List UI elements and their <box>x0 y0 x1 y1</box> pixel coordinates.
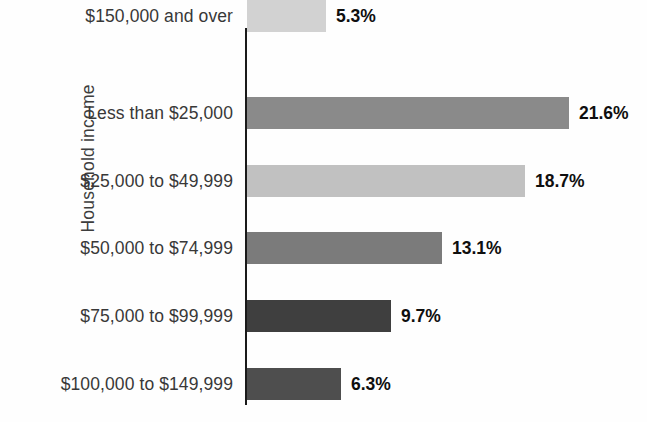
category-label: $100,000 to $149,999 <box>0 374 233 395</box>
bar-row: $25,000 to $49,999 18.7% <box>0 165 647 197</box>
value-label: 18.7% <box>535 171 585 192</box>
bar <box>247 0 326 32</box>
bar-chart: Household income Less than $25,000 21.6%… <box>0 0 647 422</box>
category-label: Less than $25,000 <box>0 103 233 124</box>
value-label: 6.3% <box>351 374 391 395</box>
category-label: $75,000 to $99,999 <box>0 306 233 327</box>
category-label: $50,000 to $74,999 <box>0 238 233 259</box>
bar-row: $150,000 and over 5.3% <box>0 0 647 32</box>
bar <box>247 97 569 129</box>
value-label: 21.6% <box>579 103 629 124</box>
value-label: 5.3% <box>336 6 376 27</box>
y-axis-line <box>245 28 247 405</box>
bar-row: $75,000 to $99,999 9.7% <box>0 300 647 332</box>
value-label: 9.7% <box>401 306 441 327</box>
bar <box>247 368 341 400</box>
bar-row: $50,000 to $74,999 13.1% <box>0 232 647 264</box>
bar <box>247 232 442 264</box>
category-label: $25,000 to $49,999 <box>0 171 233 192</box>
bar-row: Less than $25,000 21.6% <box>0 97 647 129</box>
category-label: $150,000 and over <box>0 6 233 27</box>
bar <box>247 300 391 332</box>
bar <box>247 165 525 197</box>
bar-row: $100,000 to $149,999 6.3% <box>0 368 647 400</box>
value-label: 13.1% <box>452 238 502 259</box>
